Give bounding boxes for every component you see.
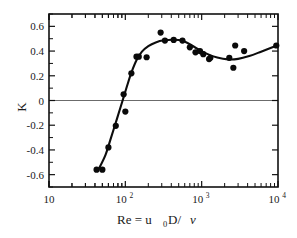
data-point [105,144,111,150]
y-axis-title: K [14,102,29,112]
x-tick-exponent: 2 [129,191,133,200]
data-point [232,42,238,48]
y-tick-label: -0.2 [27,119,44,131]
data-point [162,37,168,43]
data-point [230,65,236,71]
data-point [144,54,150,60]
data-point [241,48,247,54]
data-point [93,167,99,173]
data-point [207,55,213,61]
data-point [187,44,193,50]
x-tick-exponent: 4 [282,191,286,200]
x-tick-exponent: 3 [206,191,210,200]
x-tick-mantissa: 10 [192,193,204,205]
y-tick-label: 0.6 [30,20,44,32]
data-point [128,70,134,76]
x-tick-label: 10 [44,193,56,205]
figure-container: 0.60.40.20-0.2-0.4-0.6 10102103104 K Re … [0,0,297,238]
data-point [121,91,127,97]
data-point [171,37,177,43]
data-point [200,51,206,57]
x-tick-mantissa: 10 [116,193,128,205]
y-tick-label: 0.4 [30,45,44,57]
x-axis-title-subscript: 0 [163,219,167,229]
x-axis-title-nu: ν [190,212,196,227]
x-axis-title-mid: D/ [168,212,181,227]
data-point [99,167,105,173]
scatter-plot: 0.60.40.20-0.2-0.4-0.6 10102103104 K Re … [0,0,297,238]
y-tick-label: 0.2 [30,70,44,82]
x-tick-mantissa: 10 [269,193,281,205]
y-tick-label: -0.6 [27,169,45,181]
data-point [113,123,119,129]
data-point [136,54,142,60]
data-point [226,55,232,61]
x-axis-title-lead: Re = u [117,212,152,227]
data-point [273,42,279,48]
data-point [179,37,185,43]
data-point [158,29,164,35]
data-point [122,109,128,115]
x-tick-mantissa: 10 [44,193,56,205]
y-tick-label: -0.4 [27,144,45,156]
y-tick-label: 0 [39,95,45,107]
